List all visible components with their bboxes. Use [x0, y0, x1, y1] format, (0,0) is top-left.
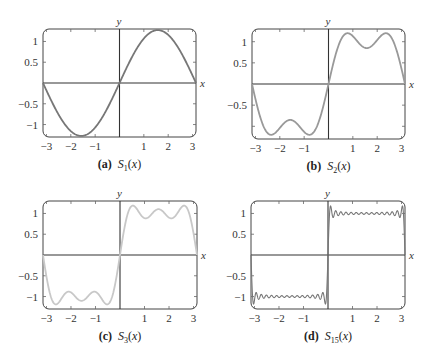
x-axis-label: x: [200, 249, 206, 261]
x-tick-label: 1: [142, 312, 148, 324]
panel-caption: (b) S2(x): [307, 159, 351, 175]
x-tick-label: −3: [250, 142, 262, 154]
x-axis-label: x: [408, 249, 414, 261]
x-tick-label: −1: [89, 140, 101, 152]
panel-caption: (d) S15(x): [304, 329, 352, 345]
x-tick-label: 2: [374, 312, 380, 324]
x-tick-label: 1: [350, 142, 356, 154]
x-tick-label: 2: [166, 312, 172, 324]
x-tick-label: −3: [249, 312, 261, 324]
chart-panel-a: xy−3−2−112310.5−0.5−1(a) S1(x): [18, 15, 205, 173]
chart-panel-d: xy−3−2−112310.5−0.5−1(d) S15(x): [226, 187, 414, 345]
panel-caption: (a) S1(x): [98, 157, 141, 173]
panel-caption: (c) S3(x): [99, 329, 142, 345]
x-tick-label: −2: [65, 312, 77, 324]
chart-panel-b: xy−3−2−112310.5−0.5(b) S2(x): [227, 15, 414, 175]
y-tick-label: 1: [241, 207, 247, 219]
x-tick-label: 3: [190, 140, 196, 152]
x-axis-label: x: [199, 77, 205, 89]
fourier-series-figure: xy−3−2−112310.5−0.5−1(a) S1(x)xy−3−2−112…: [0, 0, 424, 352]
x-tick-label: −3: [41, 312, 53, 324]
x-tick-label: 3: [191, 312, 197, 324]
x-tick-label: −2: [273, 312, 285, 324]
x-axis-label: x: [408, 78, 414, 90]
x-tick-label: 1: [141, 140, 147, 152]
y-axis-label: y: [116, 187, 122, 199]
x-tick-label: −1: [298, 312, 310, 324]
y-tick-label: −0.5: [18, 270, 38, 282]
x-tick-label: −3: [41, 140, 53, 152]
y-tick-label: 0.5: [233, 57, 247, 69]
y-tick-label: −0.5: [18, 98, 38, 110]
y-axis-label: y: [324, 187, 330, 199]
x-tick-label: 3: [399, 312, 405, 324]
y-tick-label: −0.5: [227, 99, 247, 111]
x-tick-label: −2: [274, 142, 286, 154]
x-tick-label: 2: [374, 142, 380, 154]
y-tick-label: 1: [33, 35, 39, 47]
y-tick-label: −1: [26, 119, 38, 131]
y-tick-label: −1: [234, 291, 246, 303]
y-tick-label: 0.5: [24, 56, 38, 68]
x-tick-label: −2: [65, 140, 77, 152]
y-axis-label: y: [116, 15, 122, 27]
x-tick-label: 2: [165, 140, 171, 152]
y-tick-label: 0.5: [24, 228, 38, 240]
x-tick-label: 1: [350, 312, 356, 324]
x-tick-label: 3: [399, 142, 405, 154]
y-tick-label: −1: [26, 291, 38, 303]
chart-panel-c: xy−3−2−112310.5−0.5−1(c) S3(x): [18, 187, 206, 345]
y-tick-label: −0.5: [226, 270, 246, 282]
y-tick-label: 1: [242, 36, 248, 48]
y-axis-label: y: [325, 15, 331, 27]
x-tick-label: −1: [298, 142, 310, 154]
x-tick-label: −1: [90, 312, 102, 324]
y-tick-label: 1: [33, 207, 39, 219]
y-tick-label: 0.5: [232, 228, 246, 240]
